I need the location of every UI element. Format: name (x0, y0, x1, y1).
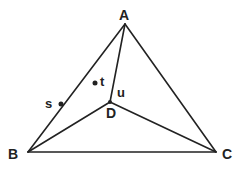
edge-ab (28, 24, 125, 152)
edge-cd (110, 102, 216, 152)
annotation-label-u: u (117, 86, 125, 99)
point-d-dot (108, 100, 112, 104)
vertex-label-b: B (8, 147, 18, 161)
edge-bd (28, 102, 110, 152)
vertex-label-a: A (119, 8, 129, 22)
vertex-label-c: C (222, 147, 232, 161)
triangle-diagram: A B C D s t u (0, 0, 244, 170)
edge-ca (125, 24, 216, 152)
point-label-t: t (100, 75, 104, 88)
point-s-dot (59, 102, 64, 107)
vertex-label-d: D (106, 106, 116, 120)
point-t-dot (93, 81, 98, 86)
point-label-s: s (45, 97, 52, 110)
